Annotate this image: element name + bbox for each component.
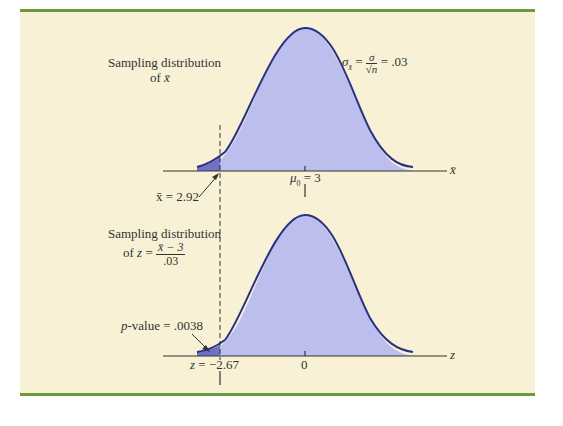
sigma-frac-den: √n [366, 64, 378, 75]
top-title-line1: Sampling distribution [108, 55, 221, 70]
pvalue-rest: -value = .0038 [128, 318, 204, 333]
z-value-rest: = −2.67 [195, 357, 239, 372]
xbar-value-label: x̄ = 2.92 [156, 189, 199, 204]
bottom-title-eq: = [142, 245, 156, 260]
mean-label: μ0 = 3 [290, 170, 321, 191]
bottom-title-line2: of z = x̄ − 3.03 [123, 241, 185, 268]
top-title-var: x̄ [164, 70, 170, 85]
z-frac-den: .03 [156, 255, 185, 268]
sigma-value: = .03 [377, 54, 407, 69]
pvalue-label: p-value = .0038 [121, 318, 203, 333]
z-fraction: x̄ − 3.03 [156, 241, 185, 268]
bottom-axis-label: z [450, 347, 455, 362]
bottom-title-line1: Sampling distribution [108, 226, 221, 241]
top-title-prefix: of [150, 70, 164, 85]
sigma-eq: = [352, 54, 366, 69]
distribution-plot [0, 0, 563, 426]
z-value-label: z = −2.67 [190, 357, 239, 372]
xbar-arrowhead [212, 173, 219, 180]
sigma-formula: σx̄ = σ√n = .03 [342, 52, 407, 75]
top-curve-fill [197, 28, 413, 171]
sigma-fraction: σ√n [366, 52, 378, 75]
top-title-line2: of x̄ [150, 70, 170, 85]
top-axis-label: x̄ [450, 162, 456, 177]
mean-rest: = 3 [301, 170, 321, 185]
zero-label: 0 [301, 357, 308, 372]
bottom-title-prefix: of [123, 245, 137, 260]
z-frac-num: x̄ − 3 [156, 241, 185, 255]
